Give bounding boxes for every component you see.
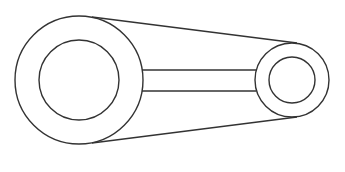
small-pulley-inner-circle bbox=[269, 57, 315, 103]
belt-top-line bbox=[92, 17, 297, 43]
belt-bottom-line bbox=[92, 117, 297, 143]
large-pulley-inner-circle bbox=[39, 40, 119, 120]
large-pulley-outer-circle bbox=[15, 16, 143, 144]
belt-pulley-diagram bbox=[0, 0, 345, 172]
small-pulley-outer-circle bbox=[255, 43, 329, 117]
